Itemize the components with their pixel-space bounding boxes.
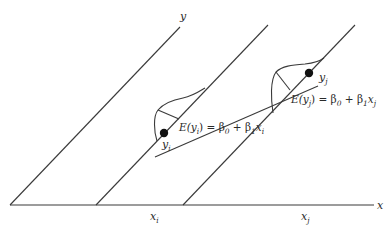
equation-i: E(yi) = β0 + β1xi bbox=[178, 121, 265, 136]
point-yj bbox=[305, 69, 313, 77]
x-axis-label: x bbox=[377, 199, 384, 212]
diagram-canvas: x y yi yj E(yi) = β0 + β1xi E(yj) = β0 +… bbox=[0, 0, 388, 225]
point-yi bbox=[160, 129, 168, 137]
y-axis-label: y bbox=[179, 10, 187, 23]
equation-j: E(yj) = β0 + β1xj bbox=[290, 93, 377, 108]
xj-reference-line bbox=[183, 25, 355, 205]
tick-label-xj: xj bbox=[301, 210, 310, 225]
density-mean-marker-j bbox=[276, 72, 290, 90]
tick-label-xi: xi bbox=[150, 210, 159, 225]
density-mean-marker-i bbox=[158, 110, 179, 119]
label-yi: yi bbox=[161, 138, 171, 153]
y-axis bbox=[10, 27, 180, 205]
regression-diagram: x y yi yj E(yi) = β0 + β1xi E(yj) = β0 +… bbox=[0, 0, 388, 225]
label-yj: yj bbox=[318, 71, 328, 86]
xi-reference-line bbox=[96, 25, 268, 205]
